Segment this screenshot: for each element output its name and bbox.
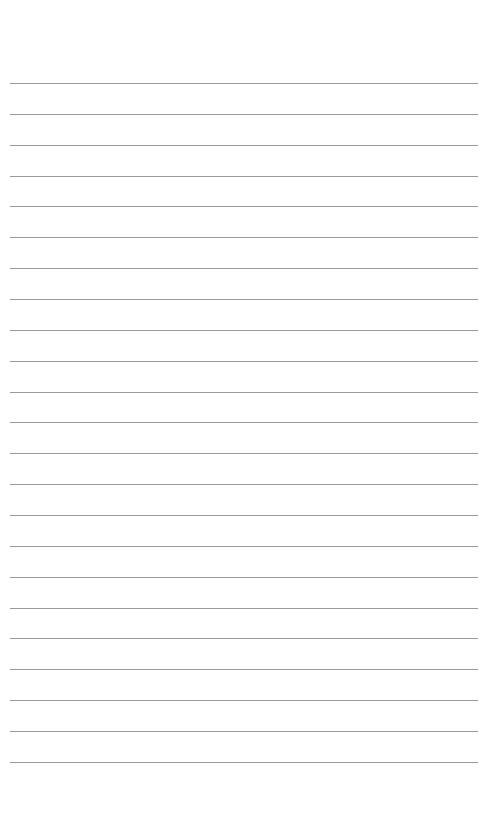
ruled-line <box>10 669 478 670</box>
ruled-line <box>10 762 478 763</box>
ruled-line <box>10 237 478 238</box>
ruled-line <box>10 484 478 485</box>
ruled-line <box>10 299 478 300</box>
ruled-line <box>10 546 478 547</box>
ruled-line <box>10 453 478 454</box>
ruled-line <box>10 700 478 701</box>
ruled-line <box>10 330 478 331</box>
ruled-line <box>10 145 478 146</box>
ruled-line <box>10 361 478 362</box>
ruled-line <box>10 515 478 516</box>
ruled-line <box>10 114 478 115</box>
ruled-line <box>10 608 478 609</box>
ruled-line <box>10 577 478 578</box>
ruled-line <box>10 422 478 423</box>
ruled-line <box>10 176 478 177</box>
ruled-line <box>10 638 478 639</box>
lined-paper-page <box>0 0 504 830</box>
ruled-line <box>10 206 478 207</box>
ruled-line <box>10 268 478 269</box>
ruled-line <box>10 392 478 393</box>
ruled-line <box>10 731 478 732</box>
ruled-line <box>10 83 478 84</box>
